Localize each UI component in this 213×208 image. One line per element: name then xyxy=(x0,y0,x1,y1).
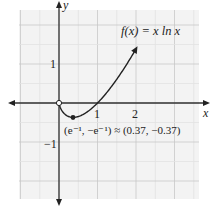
x-axis-left-arrow-icon xyxy=(8,100,15,106)
function-graph: y x 1 2 1 −1 f(x) = x ln x (e⁻¹, −e⁻¹) ≈… xyxy=(0,0,213,208)
minimum-point xyxy=(71,115,76,120)
x-tick-label-1: 1 xyxy=(94,107,100,121)
minimum-point-label: (e⁻¹, −e⁻¹) ≈ (0.37, −0.37) xyxy=(64,124,181,137)
y-axis-label: y xyxy=(62,0,69,12)
y-axis-down-arrow-icon xyxy=(56,199,62,206)
function-label: f(x) = x ln x xyxy=(121,24,181,38)
x-axis-label: x xyxy=(202,106,209,120)
y-axis-up-arrow-icon xyxy=(56,1,62,8)
function-label-text: f(x) = x ln x xyxy=(121,24,181,38)
y-tick-label-1: 1 xyxy=(50,57,56,71)
grid-background xyxy=(19,10,199,199)
x-tick-label-2: 2 xyxy=(132,107,138,121)
origin-open-point xyxy=(56,100,61,105)
y-tick-label-neg1: −1 xyxy=(44,137,57,151)
